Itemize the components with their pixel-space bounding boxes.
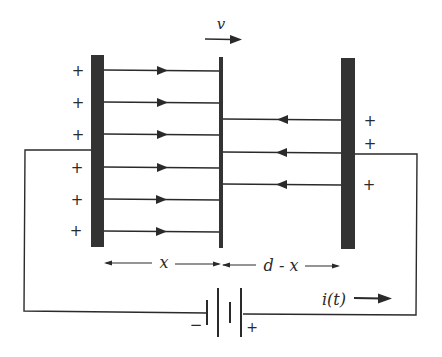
capacitor-diagram: + + + + + + + + + v − + x: [0, 0, 442, 357]
field-arrow-icon: [157, 163, 168, 172]
field-arrow-icon: [276, 148, 287, 157]
field-arrow-icon: [157, 66, 168, 75]
right-charges: + + +: [363, 112, 377, 194]
field-arrow-icon: [156, 195, 167, 204]
field-arrow-icon: [276, 180, 287, 189]
plus-charge: +: [72, 62, 85, 80]
plus-charge: +: [363, 176, 376, 194]
battery-negative-label: −: [190, 316, 203, 334]
current-label: i(t): [322, 290, 346, 309]
plus-charge: +: [72, 126, 85, 144]
plus-charge: +: [71, 191, 84, 209]
field-arrow-icon: [156, 227, 167, 236]
left-plate: [91, 55, 104, 247]
right-field-lines: [223, 115, 341, 189]
velocity-label: v: [217, 15, 226, 33]
left-field-lines: [104, 66, 219, 236]
field-arrow-icon: [277, 115, 288, 124]
gap-x-label: x: [159, 253, 168, 272]
plus-charge: +: [364, 112, 377, 130]
plus-charge: +: [364, 135, 377, 153]
field-arrow-icon: [157, 98, 168, 107]
field-arrow-icon: [157, 130, 168, 139]
velocity-indicator: v: [205, 15, 242, 44]
current-arrow-icon: [354, 294, 392, 304]
plus-charge: +: [72, 94, 85, 112]
plus-charge: +: [70, 222, 83, 240]
battery-icon: [207, 288, 241, 337]
plus-charge: +: [71, 159, 84, 177]
velocity-arrow-icon: [205, 39, 232, 40]
gap-d-minus-x-label: d - x: [264, 256, 299, 275]
left-charges: + + + + + +: [70, 62, 85, 240]
battery-positive-label: +: [246, 319, 258, 335]
middle-plate: [219, 57, 223, 248]
right-plate: [341, 58, 355, 249]
